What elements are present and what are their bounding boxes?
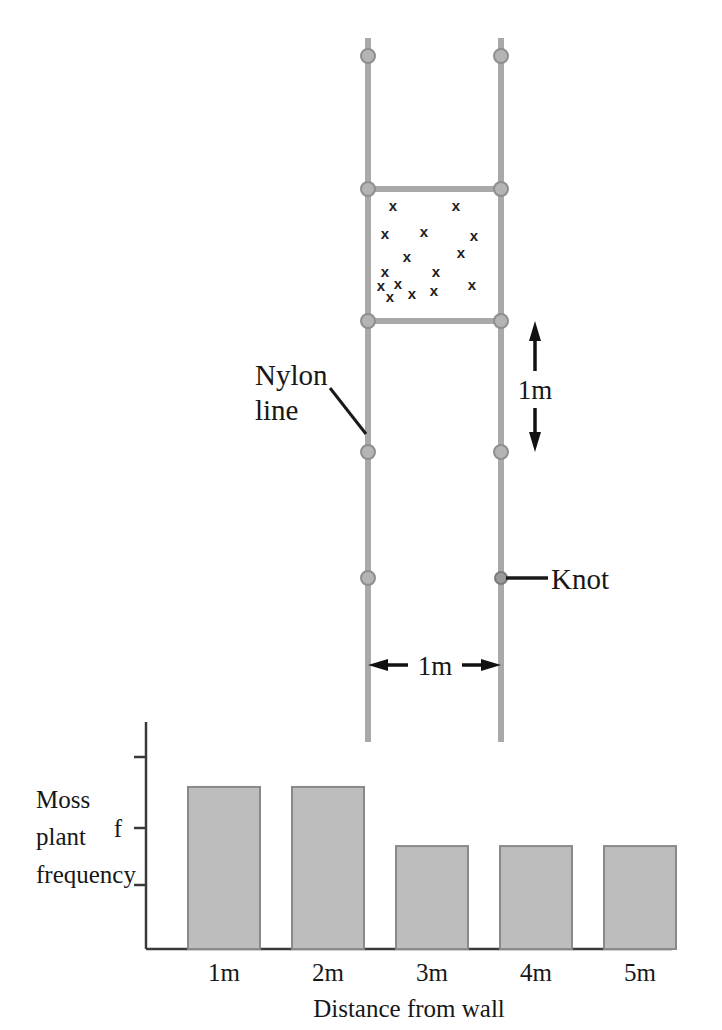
y-axis-label-line-3: frequency	[36, 861, 136, 888]
knot-icon-labelled	[495, 572, 507, 584]
nylon-line-label-1: Nylon	[255, 359, 328, 391]
y-axis-label-line-2: plant	[36, 823, 86, 850]
x-tick-label: 1m	[208, 959, 241, 986]
vertical-dimension-label: 1m	[518, 375, 553, 405]
nylon-line-grid: xxxxxxxxxxxxxxx Nylon line Knot 1m	[255, 38, 609, 742]
bar	[500, 846, 572, 949]
y-tick-label-f: f	[114, 815, 123, 842]
bar	[396, 846, 468, 949]
knot-icon	[494, 182, 508, 196]
moss-plant-mark: x	[457, 244, 466, 261]
horizontal-dimension-label: 1m	[418, 651, 453, 681]
knot-label: Knot	[551, 563, 609, 595]
arrowhead-down-icon	[529, 432, 541, 452]
knot-icon	[361, 182, 375, 196]
knot-icon	[494, 314, 508, 328]
nylon-line-label-2: line	[255, 394, 299, 426]
bar	[188, 787, 260, 949]
knot-icon	[361, 445, 375, 459]
horizontal-dimension-arrow: 1m	[368, 651, 501, 681]
vertical-dimension-arrow: 1m	[518, 321, 553, 452]
x-tick-label: 3m	[416, 959, 449, 986]
moss-frequency-bar-chart: Moss plant frequency f 1m2m3m4m5m Distan…	[36, 722, 676, 1022]
y-axis-label-line-1: Moss	[36, 786, 90, 813]
knot-icon	[361, 571, 375, 585]
knot-icon	[494, 445, 508, 459]
arrowhead-up-icon	[529, 321, 541, 341]
knot-icon	[361, 49, 375, 63]
moss-plant-mark: x	[430, 282, 439, 299]
moss-plant-mark: x	[381, 225, 390, 242]
x-axis-title: Distance from wall	[313, 995, 505, 1022]
bars-group	[188, 787, 676, 949]
moss-plant-mark: x	[420, 223, 429, 240]
moss-plant-mark: x	[452, 197, 461, 214]
knot-icon	[361, 314, 375, 328]
bar	[292, 787, 364, 949]
moss-plant-mark: x	[403, 248, 412, 265]
moss-plant-mark: x	[377, 277, 386, 294]
x-tick-label: 2m	[312, 959, 345, 986]
bar	[604, 846, 676, 949]
moss-plant-mark: x	[408, 285, 417, 302]
x-tick-label: 4m	[520, 959, 553, 986]
x-axis-tick-labels: 1m2m3m4m5m	[208, 959, 657, 986]
moss-plant-mark: x	[468, 276, 477, 293]
nylon-line-leader	[330, 388, 366, 434]
moss-plant-mark: x	[394, 275, 403, 292]
moss-plant-mark: x	[389, 197, 398, 214]
figure-canvas: xxxxxxxxxxxxxxx Nylon line Knot 1m	[0, 0, 722, 1030]
moss-plant-mark: x	[432, 263, 441, 280]
moss-plant-mark: x	[470, 227, 479, 244]
quadrat-moss-marks: xxxxxxxxxxxxxxx	[377, 197, 479, 305]
x-tick-label: 5m	[624, 959, 657, 986]
knot-icon	[494, 49, 508, 63]
moss-plant-mark: x	[386, 288, 395, 305]
moss-transect-figure: xxxxxxxxxxxxxxx Nylon line Knot 1m	[0, 0, 722, 1030]
